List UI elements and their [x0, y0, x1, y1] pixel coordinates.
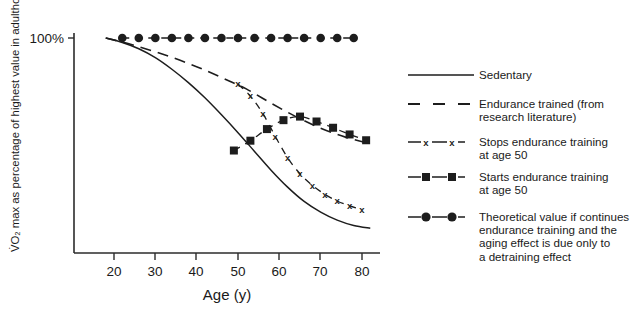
marker-circle: [135, 34, 144, 43]
marker-circle: [217, 34, 226, 43]
x-tick-50-label: 50: [230, 264, 245, 279]
marker-x: x: [347, 200, 353, 211]
marker-x: x: [310, 180, 316, 191]
marker-x: x: [335, 195, 341, 206]
marker-circle: [349, 34, 358, 43]
marker-circle: [184, 34, 193, 43]
x-ticks: 20 30 40 50 60 70 80: [106, 253, 369, 279]
marker-square: [296, 113, 304, 121]
legend-label-theoretical-value: Theoretical value if continues: [479, 210, 629, 223]
marker-x: x: [235, 78, 241, 89]
marker-x: x: [285, 152, 291, 163]
marker-x: x: [359, 204, 365, 215]
marker-circle: [201, 34, 210, 43]
marker-square: [313, 118, 321, 126]
marker-square: [230, 147, 238, 155]
x-tick-40-label: 40: [188, 264, 203, 279]
chart-figure: V̇O₂ max as percentage of highest value …: [0, 0, 643, 318]
marker-square: [263, 125, 271, 133]
legend-label-endurance-trained: research literature): [479, 110, 576, 123]
marker-circle: [250, 34, 259, 43]
marker-x: x: [322, 189, 328, 200]
x-tick-60-label: 60: [271, 264, 286, 279]
marker-circle: [267, 34, 276, 43]
legend-marker-square: [422, 173, 430, 181]
marker-circle: [234, 34, 243, 43]
series-stops: xxxxxxxxxxx: [235, 78, 365, 214]
marker-x: x: [260, 108, 266, 119]
legend-item-sedentary[interactable]: Sedentary: [408, 68, 532, 81]
chart-legend: SedentaryEndurance trained (fromresearch…: [408, 68, 629, 263]
legend-label-theoretical-value: aging effect is due only to: [479, 236, 610, 249]
legend-label-endurance-trained: Endurance trained (from: [479, 97, 604, 110]
marker-square: [246, 137, 254, 145]
legend-item-theoretical-value[interactable]: Theoretical value if continuesendurance …: [408, 210, 629, 263]
legend-label-theoretical-value: a detraining effect: [479, 250, 572, 263]
marker-circle: [316, 34, 325, 43]
legend-item-starts-training[interactable]: Starts endurance trainingat age 50: [408, 170, 609, 196]
marker-circle: [118, 34, 127, 43]
marker-square: [346, 130, 354, 138]
x-tick-70-label: 70: [312, 264, 327, 279]
series-line-sedentary: [106, 38, 371, 228]
legend-label-starts-training: at age 50: [479, 183, 527, 196]
legend-label-stops-training: at age 50: [479, 148, 527, 161]
legend-marker-circle: [421, 212, 430, 221]
marker-square: [329, 124, 337, 132]
x-tick-80-label: 80: [354, 264, 369, 279]
legend-marker-x: x: [423, 137, 429, 148]
axes: 100% 20 30 40 50 60 70 80 Age (y): [29, 31, 380, 303]
legend-marker-circle: [447, 212, 456, 221]
vo2max-aging-line-chart: V̇O₂ max as percentage of highest value …: [0, 0, 643, 318]
y-tick-100-label: 100%: [29, 31, 64, 46]
marker-circle: [300, 34, 309, 43]
y-axis-label: V̇O₂ max as percentage of highest value …: [9, 0, 21, 252]
series-line-stops: [238, 84, 362, 209]
marker-x: x: [248, 90, 254, 101]
y-axis-label-text: V̇O₂ max as percentage of highest value …: [9, 0, 21, 252]
marker-circle: [168, 34, 177, 43]
marker-circle: [151, 34, 160, 43]
legend-label-starts-training: Starts endurance training: [479, 170, 609, 183]
marker-x: x: [297, 168, 303, 179]
legend-marker-x: x: [449, 137, 455, 148]
plot-series-group: xxxxxxxxxxx: [106, 34, 371, 229]
legend-item-endurance-trained[interactable]: Endurance trained (fromresearch literatu…: [408, 97, 604, 123]
series-theory: [118, 34, 358, 43]
x-tick-30-label: 30: [147, 264, 162, 279]
series-sedentary: [106, 38, 371, 228]
marker-circle: [283, 34, 292, 43]
marker-circle: [333, 34, 342, 43]
legend-item-stops-training[interactable]: xxStops endurance trainingat age 50: [408, 135, 608, 161]
x-tick-20-label: 20: [106, 264, 121, 279]
marker-square: [279, 116, 287, 124]
marker-x: x: [273, 131, 279, 142]
marker-square: [362, 136, 370, 144]
legend-label-theoretical-value: endurance training and the: [479, 223, 617, 236]
legend-label-stops-training: Stops endurance training: [479, 135, 608, 148]
legend-label-sedentary: Sedentary: [479, 68, 532, 81]
x-axis-title: Age (y): [203, 286, 251, 303]
legend-marker-square: [448, 173, 456, 181]
